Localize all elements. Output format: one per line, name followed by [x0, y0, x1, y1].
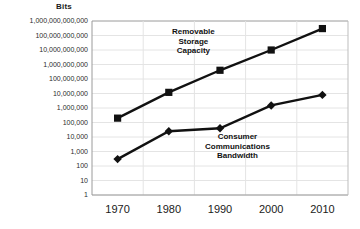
- series-label-line: Storage: [172, 37, 215, 47]
- data-point-marker: [319, 25, 326, 32]
- series-label-line: Removable: [172, 27, 215, 37]
- data-point-marker: [318, 91, 326, 99]
- x-axis-tick-label: 1980: [157, 203, 181, 215]
- data-point-marker: [114, 115, 121, 122]
- x-axis-tick-label: 2000: [259, 203, 283, 215]
- series-label-line: Capacity: [172, 46, 215, 56]
- series-label-line: Consumer: [205, 132, 270, 142]
- data-point-marker: [268, 46, 275, 53]
- chart-container: Bits 1,000,000,000,000100,000,000,00010,…: [0, 0, 360, 229]
- series-label-consumer-communications-bandwidth: ConsumerCommunicationsBandwidth: [205, 132, 270, 161]
- x-axis-tick-label: 1990: [208, 203, 232, 215]
- x-axis-tick-label: 2010: [310, 203, 334, 215]
- series-label-line: Bandwidth: [205, 151, 270, 161]
- x-axis-tick-label: 1970: [105, 203, 129, 215]
- data-point-marker: [165, 89, 172, 96]
- series-label-line: Communications: [205, 142, 270, 152]
- series-label-removable-storage-capacity: RemovableStorageCapacity: [172, 27, 215, 56]
- data-point-marker: [216, 67, 223, 74]
